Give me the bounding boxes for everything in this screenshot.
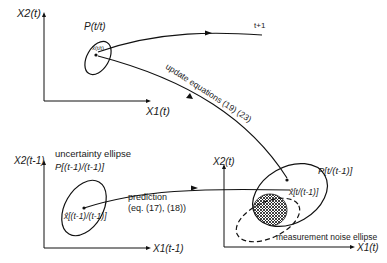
bottom-left-axis-x-label: X1(t-1) [152,243,184,254]
top-covariance-label: P(t/t) [84,21,106,32]
bottom-left-estimate-label: x̂[(t-1)/(t-1)] [63,211,107,221]
bottom-right-axis-y-label: X2(t) [212,156,235,167]
kalman-diagram: X2(t) X1(t) P(t/t) x̂(t/t) t+1 update eq… [0,0,387,263]
update-arrowhead [186,93,193,99]
hatched-intersection [253,194,287,226]
update-curve [98,56,287,178]
top-estimate-point [94,53,97,56]
next-step-arrowhead [205,31,212,36]
bottom-left-covariance-label: P[(t-1)/(t-1)] [55,161,104,172]
predicted-estimate-point [285,178,288,181]
measurement-noise-label: measurement noise ellipse [276,232,377,242]
bottom-right-axis-x-label: X1(t) [356,242,379,253]
prediction-label: prediction [128,192,167,202]
diagram-canvas: X2(t) X1(t) P(t/t) x̂(t/t) t+1 update eq… [0,0,387,263]
next-step-curve [98,33,262,52]
top-covariance-ellipse [79,37,116,79]
bottom-left-axis-y-label: X2(t-1) [13,155,45,166]
predicted-estimate-label: x̂[t/(t-1)] [288,187,319,197]
predicted-covariance-label: P[t/(t-1)] [318,165,353,176]
top-axis-y-label: X2(t) [16,7,41,19]
prediction-equations-label: (eq. (17), (18)) [128,203,186,213]
uncertainty-ellipse-caption: uncertainty ellipse [55,148,131,159]
top-axis-x-label: X1(t) [145,105,170,117]
next-step-label: t+1 [254,21,266,30]
update-label: update equations (19) (23) [164,61,254,124]
